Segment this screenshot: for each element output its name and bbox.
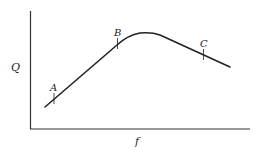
point-label-b: B bbox=[113, 27, 121, 38]
q-vs-f-diagram: A B C Q f bbox=[0, 0, 261, 153]
point-label-c: C bbox=[200, 38, 208, 49]
x-axis-label: f bbox=[134, 135, 141, 148]
y-axis-label: Q bbox=[11, 61, 20, 74]
point-label-a: A bbox=[49, 82, 57, 93]
